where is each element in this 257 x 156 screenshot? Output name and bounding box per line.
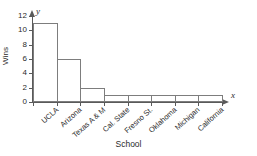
- y-axis-tick-label-wrap: 8: [12, 41, 27, 49]
- x-axis-title: School: [0, 140, 257, 149]
- x-axis-variable-label: x: [231, 90, 235, 100]
- x-axis-tick: [222, 103, 223, 106]
- y-axis-tick-label-wrap: 6: [12, 55, 27, 63]
- bar: [80, 88, 105, 102]
- x-axis-tick: [128, 103, 129, 106]
- x-axis-tick: [104, 103, 105, 106]
- y-axis-tick-label-wrap: 2: [12, 84, 27, 92]
- x-axis-tick: [175, 103, 176, 106]
- y-axis-tick-label-wrap: 12: [12, 12, 27, 20]
- y-axis-tick-label: 12: [13, 12, 27, 20]
- y-axis-tick-label: 10: [13, 26, 27, 34]
- x-axis-tick: [57, 103, 58, 106]
- bar: [151, 95, 176, 102]
- bars-layer: [33, 16, 222, 102]
- bar: [57, 59, 82, 102]
- y-axis-variable-label: y: [36, 6, 40, 16]
- x-axis-tick: [80, 103, 81, 106]
- bar-chart: y x Wins 024681012 UCLAArizonaTexas A & …: [0, 0, 257, 156]
- x-axis-tick: [33, 103, 34, 106]
- x-axis-tick-label: California: [196, 106, 225, 133]
- x-axis-tick-label: UCLA: [40, 106, 60, 125]
- x-axis-tick: [151, 103, 152, 106]
- y-axis-tick-label: 0: [13, 98, 27, 106]
- y-axis-tick-label: 6: [13, 55, 27, 63]
- x-axis-tick: [198, 103, 199, 106]
- y-axis-tick-label-wrap: 0: [12, 98, 27, 106]
- bar: [175, 95, 200, 102]
- y-axis-title: Wins: [2, 39, 10, 73]
- bar: [104, 95, 129, 102]
- x-axis-arrow-icon: [222, 99, 229, 105]
- y-axis-tick-label-wrap: 10: [12, 26, 27, 34]
- bar: [128, 95, 153, 102]
- y-axis-tick-label-wrap: 4: [12, 69, 27, 77]
- bar: [33, 23, 58, 102]
- y-axis-tick-label: 4: [13, 69, 27, 77]
- y-axis-tick-label: 2: [13, 84, 27, 92]
- y-axis-tick-label: 8: [13, 41, 27, 49]
- bar: [198, 95, 223, 102]
